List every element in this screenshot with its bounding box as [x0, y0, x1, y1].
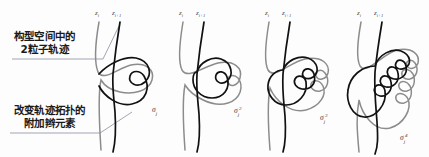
panel-4-sigma-label: σj4	[400, 133, 408, 144]
panel-3-label-z-i1: zi+1	[281, 9, 291, 18]
panel-3-label-z-i: zi	[264, 9, 270, 18]
leader-line-braid-element	[10, 112, 132, 133]
panel-2-label-z-i: zi	[178, 9, 184, 18]
panel-4-braid-loop	[348, 50, 410, 117]
panel-2-strand-grey	[179, 22, 241, 150]
leader-lines	[10, 26, 132, 133]
panel-1-label-z-i1: zi+1	[111, 9, 121, 18]
panel-3: zi zi+1 σj3	[264, 9, 328, 152]
panel-4-label-z-i: zi	[356, 9, 362, 18]
panel-1-strand-dark-main	[113, 22, 120, 152]
figure-canvas: 构型空间中的 2粒子轨迹 改变轨迹拓扑的 附加辫元素 zi zi+1	[0, 0, 429, 157]
panel-4: zi zi+1 σj4	[348, 9, 419, 154]
panel-4-label-z-i1: zi+1	[373, 9, 383, 18]
panel-3-strand-dark-main	[283, 22, 290, 152]
panel-1-strand-grey	[95, 22, 152, 150]
panel-3-sigma-label: σj3	[320, 113, 328, 124]
panel-1-label-z-i: zi	[94, 9, 100, 18]
panel-4-strand-dark-main	[375, 22, 382, 154]
braid-diagram-svg: zi zi+1 σj zi zi+1	[0, 0, 429, 157]
panel-1-sigma-label: σj	[152, 105, 158, 116]
panel-2-sigma-label: σj2	[234, 106, 242, 117]
panel-2-label-z-i1: zi+1	[195, 9, 205, 18]
panel-2-strand-dark-main	[197, 22, 204, 152]
leader-line-trajectory	[12, 26, 119, 59]
panel-2: zi zi+1 σj2	[178, 9, 242, 152]
